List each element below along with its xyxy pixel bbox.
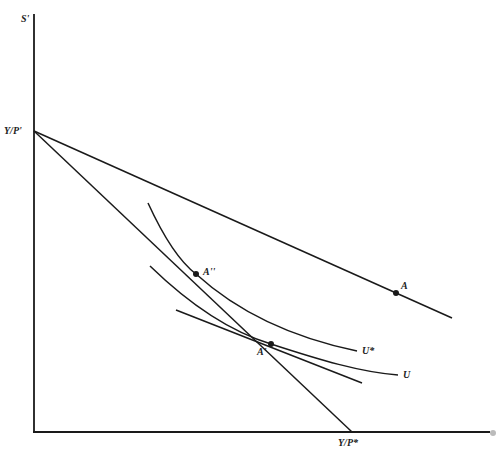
diagram-canvas: S' Y/P' Y/P* A A'' A' U* U [0,0,496,462]
curve-u-star-label: U* [362,345,375,356]
tangent-line [176,310,362,383]
page-edge-mark [490,430,496,436]
y-intercept-label: Y/P' [4,125,22,136]
point-a-double-prime-marker [193,271,199,277]
indifference-curve-u-star [148,203,357,351]
point-a-marker [393,290,399,296]
y-axis-label: S' [21,13,30,24]
point-a-prime-label: A' [256,346,267,357]
budget-line-flat [34,131,452,318]
curve-u-label: U [403,369,411,380]
budget-line-steep [34,131,352,432]
x-intercept-label: Y/P* [338,437,359,448]
point-a-prime-marker [268,341,274,347]
point-a-label: A [400,280,408,291]
point-a-double-prime-label: A'' [202,266,215,277]
